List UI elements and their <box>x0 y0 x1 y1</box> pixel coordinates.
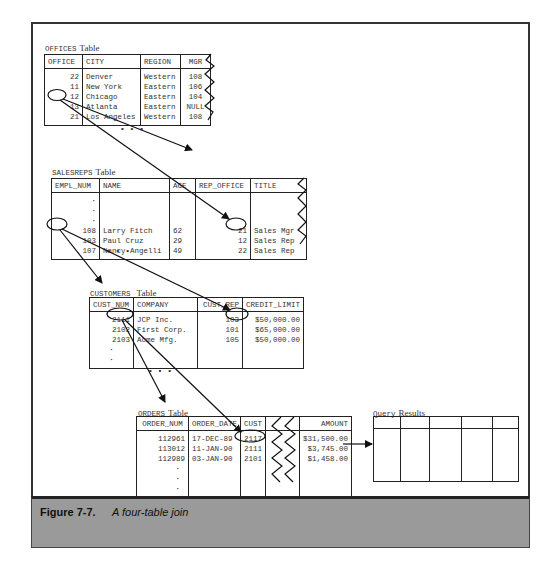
salesreps-col-name: NAME <box>100 179 170 193</box>
cell <box>189 464 241 498</box>
cell: First Corp. <box>134 325 198 335</box>
cell <box>243 345 304 369</box>
cell: $1,458.00 <box>300 454 352 464</box>
cell: New York <box>83 82 141 92</box>
table-row: 112961 17-DEC-89 2117 $31,500.00 <box>137 431 352 445</box>
cell: 106 <box>181 82 211 92</box>
salesreps-ellipsis: • • • <box>106 246 130 255</box>
orders-col-amount: AMOUNT <box>300 417 352 431</box>
cell: 108 <box>181 112 211 126</box>
cell: Larry Fitch <box>100 226 170 236</box>
offices-table-label: OFFICESTable <box>45 43 99 53</box>
salesreps-col-title: TITLE <box>251 179 307 193</box>
offices-col-region: REGION <box>141 55 181 69</box>
result-col <box>401 417 430 428</box>
cell: Acme Mfg. <box>134 335 198 345</box>
cell <box>170 193 196 227</box>
cell: 107 <box>52 246 100 260</box>
offices-col-office: OFFICE <box>45 55 83 69</box>
customers-table: CUST_NUM COMPANY CUST_REP CREDIT_LIMIT 2… <box>89 297 304 369</box>
cell: 108 <box>181 69 211 83</box>
result-col <box>430 417 462 428</box>
table-row: 2111 JCP Inc. 103 $50,000.00 <box>90 312 304 326</box>
cell <box>266 431 300 445</box>
cell: Eastern <box>141 82 181 92</box>
cell: $3,745.00 <box>300 444 352 454</box>
cell: 12 <box>196 236 251 246</box>
cell: Sales Mgr <box>251 226 307 236</box>
cell: 113012 <box>137 444 189 454</box>
cell <box>266 444 300 454</box>
cell <box>134 345 198 369</box>
cell: 2101 <box>241 454 266 464</box>
query-results-body <box>374 429 518 481</box>
figure-caption-bar: Figure 7-7. A four-table join <box>31 496 530 548</box>
cell: 29 <box>170 236 196 246</box>
cell: Chicago <box>83 92 141 102</box>
table-row: 103 Paul Cruz 29 12 Sales Rep <box>52 236 307 246</box>
table-row: ··· <box>137 464 352 498</box>
table-row: 108 Larry Fitch 62 21 Sales Mgr <box>52 226 307 236</box>
offices-table: OFFICE CITY REGION MGR 22 Denver Western… <box>44 54 211 126</box>
table-row: ·· <box>90 345 304 369</box>
vertical-ellipsis: ··· <box>137 464 189 498</box>
result-col <box>493 417 518 428</box>
cell: Sales Rep <box>251 236 307 246</box>
cell <box>266 454 300 464</box>
cell: 12 <box>45 92 83 102</box>
salesreps-col-rep-office: REP_OFFICE <box>196 179 251 193</box>
cell <box>266 464 300 498</box>
table-row: 112989 03-JAN-90 2101 $1,458.00 <box>137 454 352 464</box>
offices-table-word: Table <box>80 43 100 53</box>
cell: 104 <box>181 92 211 102</box>
table-row: 12 Chicago Eastern 104 <box>45 92 211 102</box>
table-row: 22 Denver Western 108 <box>45 69 211 83</box>
result-col <box>401 429 430 481</box>
cell: $50,000.00 <box>243 312 304 326</box>
result-col <box>462 429 493 481</box>
table-row: 113012 11-JAN-90 2111 $3,745.00 <box>137 444 352 454</box>
result-col <box>374 417 401 428</box>
customers-col-cust-rep: CUST_REP <box>198 298 243 312</box>
cell: 22 <box>45 69 83 83</box>
customers-col-cust-num: CUST_NUM <box>90 298 134 312</box>
customers-col-company: COMPANY <box>134 298 198 312</box>
query-results-table <box>373 416 519 482</box>
offices-col-mgr: MGR <box>181 55 211 69</box>
cell: Eastern <box>141 92 181 102</box>
cell: 03-JAN-90 <box>189 454 241 464</box>
cell: 49 <box>170 246 196 260</box>
cell <box>241 464 266 498</box>
cell: $65,000.00 <box>243 325 304 335</box>
cell: 2111 <box>90 312 134 326</box>
table-row: 13 Atlanta Eastern NULL <box>45 102 211 112</box>
customers-ellipsis: • • • <box>148 366 172 375</box>
cell: 112961 <box>137 431 189 445</box>
table-row: 107 Nancy Angelli 49 22 Sales Rep <box>52 246 307 260</box>
orders-col-order-num: ORDER_NUM <box>137 417 189 431</box>
cell: $31,500.00 <box>300 431 352 445</box>
cell <box>251 193 307 227</box>
cell: 2111 <box>241 444 266 454</box>
orders-col-cust: CUST <box>241 417 266 431</box>
salesreps-table: EMPL_NUM NAME AGE REP_OFFICE TITLE ··· 1… <box>51 178 307 260</box>
cell: NULL <box>181 102 211 112</box>
cell: 13 <box>45 102 83 112</box>
cell: 103 <box>52 236 100 246</box>
figure-caption: A four-table join <box>112 506 188 518</box>
orders-table: ORDER_NUM ORDER_DATE CUST AMOUNT 112961 … <box>136 416 352 498</box>
cell: 112989 <box>137 454 189 464</box>
cell: 2102 <box>90 325 134 335</box>
cell: 11-JAN-90 <box>189 444 241 454</box>
cell: Western <box>141 112 181 126</box>
salesreps-table-label: SALESREPSTable <box>52 167 115 177</box>
salesreps-col-empl-num: EMPL_NUM <box>52 179 100 193</box>
cell: 2117 <box>241 431 266 445</box>
query-results-header <box>374 417 518 429</box>
cell: 21 <box>196 226 251 236</box>
cell <box>300 464 352 498</box>
cell: Eastern <box>141 102 181 112</box>
offices-ellipsis: • • • <box>120 124 144 133</box>
cell <box>196 193 251 227</box>
cell: 62 <box>170 226 196 236</box>
